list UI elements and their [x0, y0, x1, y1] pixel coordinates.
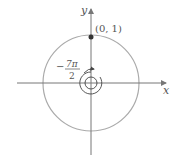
- point-0-1: [89, 35, 94, 40]
- angle-denominator: 2: [69, 71, 75, 81]
- x-axis-label: x: [163, 84, 170, 97]
- point-label: (0, 1): [95, 23, 122, 34]
- angle-numerator: 7π: [66, 59, 79, 69]
- angle-sign: −: [56, 61, 64, 72]
- y-axis-label: y: [80, 4, 88, 17]
- unit-circle-diagram: y x (0, 1) − 7π 2: [0, 0, 177, 159]
